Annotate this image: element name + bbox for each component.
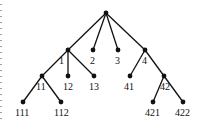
tree-node-n11	[40, 74, 45, 79]
tree-node-root	[104, 11, 109, 16]
tree-labels: 12341112134142111112421422	[15, 55, 190, 118]
edge-n4-n42	[145, 50, 164, 76]
node-label-n421: 421	[145, 107, 160, 118]
node-label-n111: 111	[15, 107, 29, 118]
edge-n1-n11	[42, 50, 68, 76]
tree-node-n1	[66, 48, 71, 53]
tree-edges	[23, 13, 183, 102]
node-label-n4: 4	[142, 55, 147, 66]
tree-diagram: 12341112134142111112421422	[0, 0, 207, 126]
tree-node-n13	[92, 74, 97, 79]
node-label-n3: 3	[115, 55, 120, 66]
tree-node-n112	[59, 100, 64, 105]
tree-node-n4	[143, 48, 148, 53]
tree-node-n111	[21, 100, 26, 105]
tree-node-n2	[91, 48, 96, 53]
tree-node-n42	[162, 74, 167, 79]
node-label-n41: 41	[124, 81, 134, 92]
edge-root-n1	[68, 13, 106, 50]
node-label-n2: 2	[90, 55, 95, 66]
node-label-n1: 1	[59, 55, 64, 66]
tree-node-n3	[116, 48, 121, 53]
tree-node-n422	[181, 100, 186, 105]
tree-node-n41	[128, 74, 133, 79]
node-label-n112: 112	[54, 107, 69, 118]
node-label-n12: 12	[63, 81, 73, 92]
tree-node-n12	[66, 74, 71, 79]
node-label-n13: 13	[89, 81, 99, 92]
node-label-n42: 42	[160, 81, 170, 92]
node-label-n11: 11	[36, 81, 46, 92]
tree-node-n421	[151, 100, 156, 105]
node-label-n422: 422	[175, 107, 190, 118]
